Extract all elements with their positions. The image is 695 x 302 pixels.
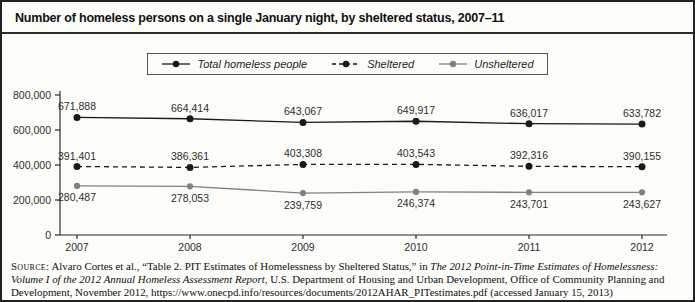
legend-label-total: Total homeless people [197, 58, 307, 70]
y-tick-label: 400,000 [13, 159, 51, 171]
data-label-total: 633,782 [623, 107, 661, 119]
data-point-total [300, 119, 307, 126]
data-label-total: 649,917 [397, 104, 435, 116]
chart-area: 0200,000400,000600,000800,00020072008200… [2, 83, 693, 259]
data-label-unsheltered: 239,759 [284, 199, 322, 211]
data-label-total: 643,067 [284, 105, 322, 117]
series-line-sheltered [77, 164, 642, 167]
x-tick-label: 2012 [630, 241, 654, 253]
data-point-sheltered [413, 161, 420, 168]
x-tick-label: 2011 [518, 241, 541, 253]
legend: Total homeless people Sheltered Unshelte… [147, 53, 547, 75]
data-label-sheltered: 390,155 [623, 150, 661, 162]
legend-dot-sheltered [343, 61, 349, 67]
data-label-sheltered: 403,308 [284, 147, 322, 159]
data-label-unsheltered: 243,701 [510, 198, 548, 210]
data-label-sheltered: 386,361 [171, 150, 209, 162]
data-label-total: 636,017 [510, 107, 548, 119]
data-point-sheltered [187, 164, 194, 171]
data-point-unsheltered [187, 183, 193, 189]
legend-dot-total [173, 61, 179, 67]
data-point-unsheltered [526, 189, 532, 195]
data-label-total: 671,888 [58, 100, 96, 112]
x-tick-label: 2009 [291, 241, 315, 253]
data-label-sheltered: 391,401 [58, 150, 96, 162]
x-tick-label: 2007 [65, 241, 89, 253]
series-line-total [77, 117, 642, 124]
data-point-unsheltered [74, 183, 80, 189]
legend-marker-sheltered-icon [331, 59, 361, 69]
y-tick-label: 800,000 [13, 89, 51, 101]
chart-title: Number of homeless persons on a single J… [2, 2, 693, 34]
series-line-unsheltered [77, 186, 642, 193]
legend-label-unsheltered: Unsheltered [474, 58, 533, 70]
y-tick-label: 0 [45, 229, 51, 241]
legend-item-sheltered: Sheltered [331, 58, 414, 70]
data-label-unsheltered: 246,374 [397, 197, 435, 209]
data-point-total [526, 120, 533, 127]
data-label-unsheltered: 278,053 [171, 192, 209, 204]
y-tick-label: 600,000 [13, 124, 51, 136]
legend-item-unsheltered: Unsheltered [438, 58, 533, 70]
data-point-total [413, 118, 420, 125]
data-label-total: 664,414 [171, 102, 209, 114]
data-point-sheltered [74, 163, 81, 170]
data-point-unsheltered [639, 189, 645, 195]
figure: Number of homeless persons on a single J… [0, 0, 695, 302]
chart-svg: 0200,000400,000600,000800,00020072008200… [2, 83, 693, 255]
source-segment: Source: [11, 260, 49, 272]
x-tick-label: 2008 [178, 241, 202, 253]
data-label-sheltered: 403,543 [397, 147, 435, 159]
data-point-unsheltered [300, 190, 306, 196]
legend-label-sheltered: Sheltered [367, 58, 414, 70]
source-note: Source: Alvaro Cortes et al., “Table 2. … [11, 260, 684, 299]
data-point-unsheltered [413, 189, 419, 195]
data-point-total [639, 121, 646, 128]
legend-marker-unsheltered-icon [438, 59, 468, 69]
data-label-sheltered: 392,316 [510, 149, 548, 161]
legend-marker-total-icon [161, 59, 191, 69]
source-segment: Alvaro Cortes et al., “Table 2. PIT Esti… [49, 260, 430, 272]
data-label-unsheltered: 280,487 [58, 191, 96, 203]
data-point-total [187, 115, 194, 122]
data-point-sheltered [300, 161, 307, 168]
y-tick-label: 200,000 [13, 194, 51, 206]
data-point-sheltered [526, 163, 533, 170]
data-label-unsheltered: 243,627 [623, 198, 661, 210]
legend-item-total: Total homeless people [161, 58, 307, 70]
data-point-sheltered [639, 163, 646, 170]
x-tick-label: 2010 [404, 241, 428, 253]
data-point-total [74, 114, 81, 121]
legend-dot-unsheltered [450, 61, 456, 67]
